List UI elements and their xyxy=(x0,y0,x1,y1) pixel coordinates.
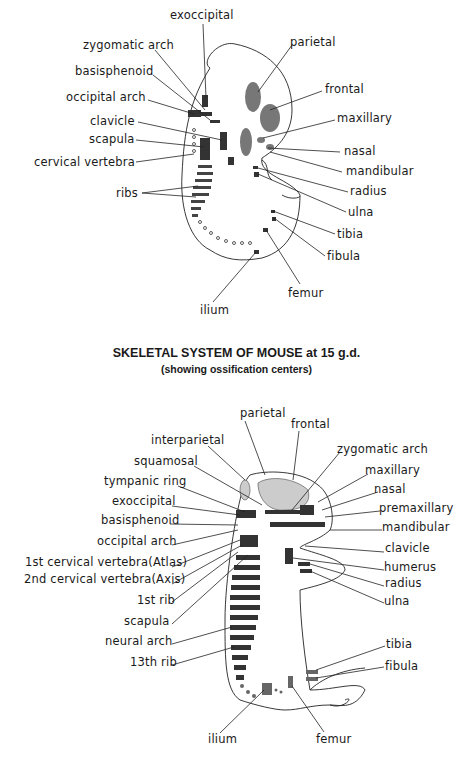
label-mandibular: mandibular xyxy=(382,522,450,534)
label-scapula: scapula xyxy=(124,616,170,628)
label-1st-rib: 1st rib xyxy=(137,595,175,607)
label-13th-rib: 13th rib xyxy=(130,657,177,669)
label-occipital-arch: occipital arch xyxy=(97,536,177,548)
label-ulna: ulna xyxy=(384,596,410,608)
label-tympanic-ring: tympanic ring xyxy=(104,476,186,488)
label-parietal: parietal xyxy=(240,408,286,420)
label-premaxillary: premaxillary xyxy=(379,503,453,515)
label-basisphenoid: basisphenoid xyxy=(101,515,179,527)
label-fibula: fibula xyxy=(385,661,418,673)
label-maxillary: maxillary xyxy=(365,465,420,477)
label-tibia: tibia xyxy=(386,639,412,651)
label-clavicle: clavicle xyxy=(385,543,430,555)
label-neural-arch: neural arch xyxy=(105,636,173,648)
label-squamosal: squamosal xyxy=(134,456,198,468)
label-nasal: nasal xyxy=(374,484,406,496)
label-humerus: humerus xyxy=(384,562,436,574)
label-ilium: ilium xyxy=(208,734,237,746)
label-axis: 2nd cervical vertebra(Axis) xyxy=(24,574,185,586)
label-radius: radius xyxy=(385,578,422,590)
label-zygomatic-arch: zygomatic arch xyxy=(337,444,428,456)
label-exoccipital: exoccipital xyxy=(112,496,176,508)
label-interparietal: interparietal xyxy=(151,435,225,447)
label-atlas: 1st cervical vertebra(Atlas) xyxy=(25,557,187,569)
label-frontal: frontal xyxy=(291,419,330,431)
label-femur: femur xyxy=(316,734,351,746)
